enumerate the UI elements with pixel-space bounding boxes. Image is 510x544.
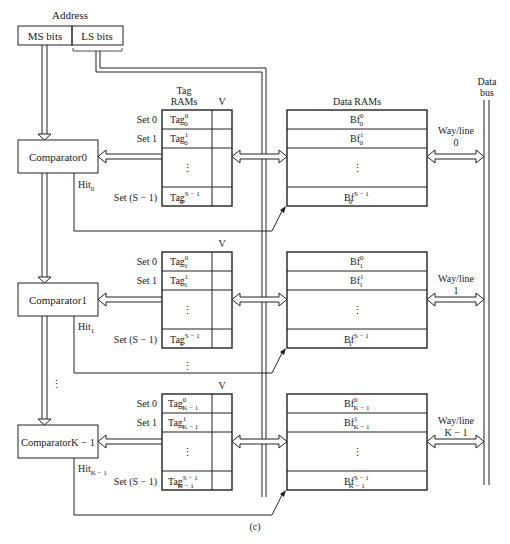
- way-line-label-0: Way/line: [438, 125, 474, 136]
- set-1-label: Set 1: [137, 133, 157, 144]
- way-k-1: ComparatorK − 1 V Set 0 Set 1 Set (S − 1…: [18, 380, 484, 515]
- data-bus-label-2: bus: [480, 87, 494, 98]
- block-ellipsis-1: ⋮: [352, 304, 363, 316]
- index-arrow-0: [232, 150, 287, 163]
- hit-1-label: Hit1: [78, 321, 95, 335]
- block-ellipsis-k-1: ⋮: [352, 446, 363, 458]
- address-label: Address: [52, 9, 88, 21]
- block-ellipsis-0: ⋮: [352, 162, 363, 174]
- way-line-label-k-1: Way/line: [438, 415, 474, 426]
- way-line-number-k-1: K − 1: [445, 427, 468, 438]
- index-arrow-1: [232, 293, 287, 306]
- set-1-label: Set 1: [137, 275, 157, 286]
- valid-header-0: V: [218, 96, 226, 107]
- tag-to-comparator-arrow-0: [98, 150, 162, 163]
- tag-to-comparator-arrow-1: [98, 293, 162, 306]
- way-line-number-0: 0: [454, 137, 459, 148]
- figure-caption: (c): [249, 521, 260, 533]
- comparator-0-label: Comparator0: [29, 151, 88, 163]
- way-line-number-1: 1: [454, 285, 459, 296]
- hit-0-label: Hit0: [78, 179, 95, 193]
- way-line-label-1: Way/line: [438, 273, 474, 284]
- tag-header-1: Tag: [177, 85, 192, 96]
- set-s-1-label: Set (S − 1): [114, 192, 157, 204]
- data-ram-header: Data RAMs: [333, 96, 381, 107]
- way-1: Comparator1 V Set 0 Set 1 Set (S − 1) Ta…: [18, 238, 484, 373]
- comparator-ellipsis: ⋮: [51, 378, 62, 390]
- tag-header-2: RAMs: [171, 96, 198, 107]
- cache-diagram: Address MS bits LS bits ⋮ Data bus Compa…: [0, 0, 510, 544]
- ways-ellipsis: ⋮: [182, 360, 193, 372]
- way-line-arrow-0: [427, 150, 484, 163]
- ms-bits-label: MS bits: [28, 30, 63, 42]
- tag-ellipsis-0: ⋮: [182, 162, 193, 174]
- set-0-label: Set 0: [137, 256, 157, 267]
- ls-bits-bracket: [73, 48, 122, 51]
- ls-bits-label: LS bits: [81, 30, 112, 42]
- data-bus-label-1: Data: [478, 76, 497, 87]
- tag-ellipsis-k-1: ⋮: [182, 446, 193, 458]
- comparator-1-label: Comparator1: [29, 294, 87, 306]
- ms-bits-bus: [38, 45, 51, 425]
- index-arrow-k-1: [232, 435, 287, 448]
- set-s-1-label: Set (S − 1): [114, 476, 157, 488]
- hit-k-1-label: HitK − 1: [78, 463, 107, 477]
- valid-header-k-1: V: [218, 380, 226, 391]
- valid-header-1: V: [218, 238, 226, 249]
- tag-ellipsis-1: ⋮: [182, 304, 193, 316]
- comparator-k-1-label: ComparatorK − 1: [21, 437, 95, 448]
- set-1-label: Set 1: [137, 417, 157, 428]
- set-0-label: Set 0: [137, 114, 157, 125]
- set-0-label: Set 0: [137, 398, 157, 409]
- tag-to-comparator-arrow-k-1: [98, 435, 162, 448]
- set-s-1-label: Set (S − 1): [114, 334, 157, 346]
